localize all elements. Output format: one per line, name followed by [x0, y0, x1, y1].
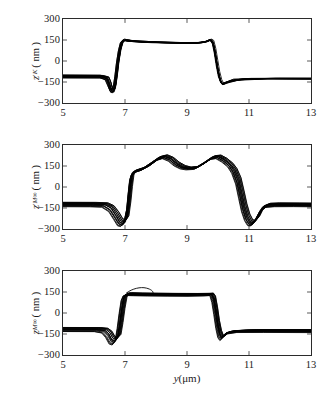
- x-tick-marks-p3: [125, 271, 249, 355]
- y-tick-n300-p3: −300: [14, 350, 60, 360]
- y-tick-n300-p1: −300: [14, 98, 60, 108]
- x-tick-13-p3: 13: [300, 360, 322, 370]
- x-tick-9-p2: 9: [176, 234, 198, 244]
- panel-zm-prime-inf: z′M∞( nm ) 300 150 0 −150 −300: [0, 136, 329, 258]
- data-traces-p2: [63, 155, 311, 227]
- data-traces-p1: [63, 39, 311, 93]
- y-tick-marks-p2: [63, 166, 311, 208]
- plot-svg-panel-1: [63, 19, 311, 103]
- figure-root: z′K( nm ) 300 150 0 −150 −300: [0, 0, 329, 397]
- plot-area-panel-3: [62, 270, 312, 356]
- x-axis-unit: (μm): [179, 372, 201, 384]
- x-tick-5-p3: 5: [52, 360, 74, 370]
- x-tick-9-p3: 9: [176, 360, 198, 370]
- panel-zm-inf: zM∞( nm ) 300 150 0 −150 −300: [0, 262, 329, 384]
- y-tick-300-p2: 300: [14, 140, 60, 150]
- y-tick-300-p3: 300: [14, 266, 60, 276]
- y-tick-300-p1: 300: [14, 14, 60, 24]
- x-tick-9-p1: 9: [176, 108, 198, 118]
- x-tick-11-p2: 11: [238, 234, 260, 244]
- x-tick-marks-p1: [125, 19, 249, 103]
- x-tick-7-p1: 7: [114, 108, 136, 118]
- plot-area-panel-2: [62, 144, 312, 230]
- y-tick-0-p1: 0: [14, 56, 60, 66]
- y-tick-n300-p2: −300: [14, 224, 60, 234]
- x-tick-5-p2: 5: [52, 234, 74, 244]
- y-tick-150-p2: 150: [14, 161, 60, 171]
- x-tick-7-p2: 7: [114, 234, 136, 244]
- y-tick-0-p3: 0: [14, 308, 60, 318]
- panel-zk: z′K( nm ) 300 150 0 −150 −300: [0, 10, 329, 132]
- y-tick-n150-p1: −150: [14, 77, 60, 87]
- y-tick-150-p1: 150: [14, 35, 60, 45]
- data-traces-p3: [63, 288, 311, 345]
- y-tick-0-p2: 0: [14, 182, 60, 192]
- x-tick-11-p3: 11: [238, 360, 260, 370]
- y-tick-150-p3: 150: [14, 287, 60, 297]
- y-tick-n150-p2: −150: [14, 203, 60, 213]
- x-tick-13-p1: 13: [300, 108, 322, 118]
- x-tick-11-p1: 11: [238, 108, 260, 118]
- y-tick-n150-p3: −150: [14, 329, 60, 339]
- x-axis-label: y(μm): [62, 372, 312, 384]
- x-tick-marks-p2: [125, 145, 249, 229]
- plot-svg-panel-3: [63, 271, 311, 355]
- plot-svg-panel-2: [63, 145, 311, 229]
- y-axis-sub-1: K: [31, 70, 39, 75]
- x-tick-13-p2: 13: [300, 234, 322, 244]
- plot-area-panel-1: [62, 18, 312, 104]
- x-tick-7-p3: 7: [114, 360, 136, 370]
- x-tick-5-p1: 5: [52, 108, 74, 118]
